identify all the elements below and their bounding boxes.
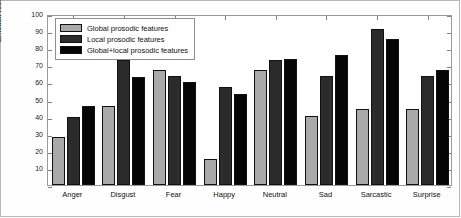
legend-item: Local prosodic features: [60, 34, 188, 44]
bar: [52, 137, 65, 185]
y-tick-label: 20: [21, 148, 43, 156]
bar: [204, 159, 217, 185]
bar: [335, 55, 348, 185]
y-axis-title: Emotion recognition (%): [0, 0, 3, 42]
bar: [153, 70, 166, 185]
bar: [102, 106, 115, 185]
x-tick-label: Surprise: [397, 190, 457, 199]
y-tick-label: 60: [21, 79, 43, 87]
bar: [234, 94, 247, 185]
y-tick-label: 90: [21, 28, 43, 36]
y-tick-label: 100: [21, 11, 43, 19]
bar: [371, 29, 384, 185]
legend-swatch: [60, 35, 82, 43]
bar: [117, 60, 130, 185]
bar-group: [305, 16, 348, 185]
bar: [219, 87, 232, 185]
bar: [254, 70, 267, 185]
chart-figure: Emotion recognition (%) 1020304050607080…: [0, 0, 461, 218]
bar: [436, 70, 449, 185]
bar: [356, 109, 369, 185]
y-tick-label: 80: [21, 45, 43, 53]
legend-label: Global prosodic features: [87, 24, 168, 33]
bar: [82, 106, 95, 185]
bar: [320, 76, 333, 185]
bar-group: [254, 16, 297, 185]
bar: [168, 76, 181, 185]
bar: [284, 59, 297, 185]
bar: [406, 109, 419, 185]
bar: [386, 39, 399, 185]
bar: [305, 116, 318, 185]
y-tick-label: 50: [21, 97, 43, 105]
bar-group: [204, 16, 247, 185]
legend-item: Global+local prosodic features: [60, 45, 188, 55]
y-tick-mark-right: [447, 187, 451, 188]
bar: [67, 117, 80, 185]
bar: [421, 76, 434, 185]
legend-swatch: [60, 24, 82, 32]
bar: [269, 60, 282, 185]
bar-group: [406, 16, 449, 185]
y-tick-label: 70: [21, 62, 43, 70]
legend-swatch: [60, 46, 82, 54]
bar: [183, 82, 196, 185]
y-tick-label: 40: [21, 114, 43, 122]
legend-label: Global+local prosodic features: [87, 46, 188, 55]
legend-label: Local prosodic features: [87, 35, 165, 44]
bar-group: [356, 16, 399, 185]
bar: [132, 77, 145, 185]
legend-item: Global prosodic features: [60, 23, 188, 33]
y-tick-mark: [48, 187, 52, 188]
y-tick-label: 30: [21, 131, 43, 139]
y-tick-label: 10: [21, 165, 43, 173]
chart-legend: Global prosodic featuresLocal prosodic f…: [55, 18, 195, 60]
